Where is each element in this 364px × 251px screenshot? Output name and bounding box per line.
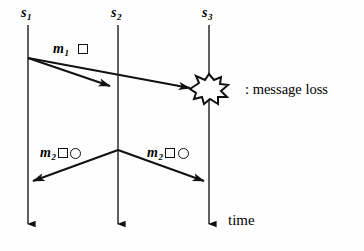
message-label-m2-left: m2: [40, 145, 81, 161]
message-label-m1: m1: [53, 41, 88, 57]
timeline-label-s1-sub: 1: [27, 12, 32, 22]
timeline-label-s1-text: s: [21, 5, 26, 20]
timeline-label-s2-text: s: [111, 5, 116, 20]
timeline-label-s2-sub: 2: [117, 12, 122, 22]
timeline-label-s2: s2: [111, 6, 121, 20]
time-axis-label: time: [228, 213, 255, 228]
message-tag-square-icon: [165, 148, 175, 158]
message-arrow-m1-to-s3-lost: [28, 58, 190, 88]
diagram-canvas: s1 s2 s3 m1 m2 m2 : message loss time: [0, 0, 364, 251]
message-tag-circle-icon: [70, 148, 81, 159]
timeline-label-s3-text: s: [202, 5, 207, 20]
legend-message-loss-text: : message loss: [245, 82, 328, 97]
message-label-m1-name: m1: [53, 41, 68, 57]
message-label-m2-left-name: m2: [40, 145, 55, 161]
timeline-label-s1: s1: [21, 6, 31, 20]
message-tag-square-icon: [58, 148, 68, 158]
message-tag-square-icon: [78, 44, 88, 54]
message-label-m2-right: m2: [147, 145, 189, 161]
message-tag-circle-icon: [178, 148, 189, 159]
sequence-diagram-svg: [0, 0, 364, 251]
timeline-label-s3-sub: 3: [208, 12, 213, 22]
message-label-m2-right-name: m2: [147, 145, 162, 161]
timeline-label-s3: s3: [202, 6, 212, 20]
message-arrow-m1-to-s2: [28, 58, 110, 86]
message-loss-starburst-icon: [190, 74, 228, 104]
